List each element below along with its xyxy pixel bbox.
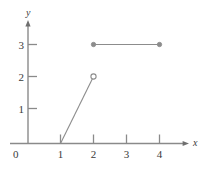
rising-segment	[61, 77, 94, 144]
origin-label: 0	[13, 149, 19, 160]
filled-endpoint-marker-right	[157, 42, 161, 46]
y-axis-tick-label-3: 3	[19, 39, 25, 50]
x-axis-tick-label-3: 3	[124, 149, 130, 160]
open-endpoint-marker	[91, 74, 96, 79]
y-axis-tick-label-2: 2	[19, 71, 25, 82]
x-axis-label: x	[193, 138, 197, 148]
x-axis-tick-label-2: 2	[91, 149, 97, 160]
y-axis-tick-label-1: 1	[19, 103, 25, 114]
y-axis-label: y	[26, 8, 30, 18]
x-axis-tick-label-1: 1	[58, 149, 64, 160]
x-axis-tick-label-4: 4	[157, 149, 163, 160]
y-axis-arrowhead	[25, 20, 30, 27]
plot-canvas	[0, 0, 207, 170]
function-graph-figure: 3 2 1 1 2 3 4 0 y x	[0, 0, 207, 170]
x-axis-arrowhead	[183, 141, 189, 146]
filled-endpoint-marker-left	[91, 42, 95, 46]
